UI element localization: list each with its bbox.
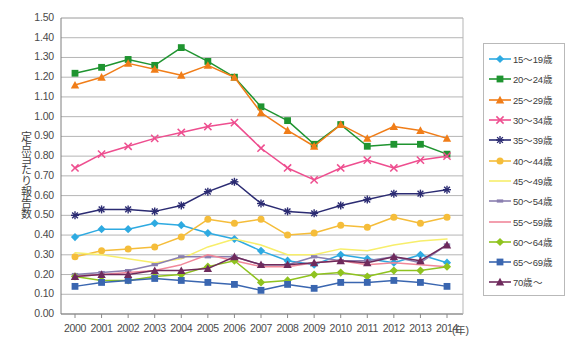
legend-item-label: 55～59歳	[513, 215, 552, 229]
legend-item-label: 15～19歳	[513, 52, 552, 66]
legend-item[interactable]: 45～49歳	[484, 171, 564, 191]
legend-marker-icon	[488, 154, 512, 168]
legend-marker-icon	[488, 275, 512, 289]
legend-item-label: 40～44歳	[513, 154, 552, 168]
legend-item-label: 70歳～	[513, 275, 542, 289]
legend-item-label: 35～39歳	[513, 133, 552, 147]
legend-item-label: 30～34歳	[513, 113, 552, 127]
line-chart: 定点当たり報告数 (年) 15～19歳20～24歳25～29歳30～34歳35～…	[0, 0, 571, 346]
y-axis-tick-label: 0.50	[24, 208, 54, 220]
legend-marker-icon	[488, 194, 512, 208]
y-axis-tick-label: 0.90	[24, 129, 54, 141]
x-axis-ticks	[75, 314, 447, 318]
legend-marker-icon	[488, 52, 512, 66]
y-axis-tick-label: 0.60	[24, 189, 54, 201]
legend-marker-icon	[488, 255, 512, 269]
legend-item[interactable]: 15～19歳	[484, 49, 564, 69]
y-axis-tick-label: 0.20	[24, 268, 54, 280]
legend-item[interactable]: 30～34歳	[484, 110, 564, 130]
y-axis-tick-label: 0.00	[24, 307, 54, 319]
legend-item[interactable]: 40～44歳	[484, 150, 564, 170]
y-axis-tick-label: 0.80	[24, 149, 54, 161]
legend-item[interactable]: 55～59歳	[484, 211, 564, 231]
legend-marker-icon	[488, 174, 512, 188]
legend-marker-icon	[488, 113, 512, 127]
y-axis-tick-label: 1.30	[24, 50, 54, 62]
legend-item-label: 65～69歳	[513, 255, 552, 269]
legend-item[interactable]: 50～54歳	[484, 191, 564, 211]
y-axis-tick-label: 1.20	[24, 70, 54, 82]
series-line	[71, 178, 451, 220]
y-axis-tick-label: 0.70	[24, 169, 54, 181]
y-axis-tick-label: 1.00	[24, 110, 54, 122]
legend-item-label: 50～54歳	[513, 194, 552, 208]
legend-item[interactable]: 70歳～	[484, 272, 564, 292]
legend-item[interactable]: 35～39歳	[484, 130, 564, 150]
x-axis-tick-label: 2014	[430, 322, 464, 334]
y-axis-tick-label: 1.40	[24, 31, 54, 43]
legend-item-label: 45～49歳	[513, 174, 552, 188]
legend-marker-icon	[488, 235, 512, 249]
legend-item-label: 20～24歳	[513, 72, 552, 86]
legend-marker-icon	[488, 215, 512, 229]
legend-item[interactable]: 25～29歳	[484, 90, 564, 110]
y-axis-tick-label: 0.30	[24, 248, 54, 260]
y-axis-tick-label: 0.40	[24, 228, 54, 240]
legend-marker-icon	[488, 133, 512, 147]
y-axis-tick-label: 0.10	[24, 287, 54, 299]
legend-item-label: 60～64歳	[513, 235, 552, 249]
legend-marker-icon	[488, 72, 512, 86]
legend-item[interactable]: 60～64歳	[484, 232, 564, 252]
y-axis-tick-label: 1.50	[24, 11, 54, 23]
legend-item[interactable]: 20～24歳	[484, 69, 564, 89]
legend-item[interactable]: 65～69歳	[484, 252, 564, 272]
legend-marker-icon	[488, 93, 512, 107]
legend: 15～19歳20～24歳25～29歳30～34歳35～39歳40～44歳45～4…	[483, 43, 565, 296]
y-axis-tick-label: 1.10	[24, 90, 54, 102]
legend-item-label: 25～29歳	[513, 93, 552, 107]
